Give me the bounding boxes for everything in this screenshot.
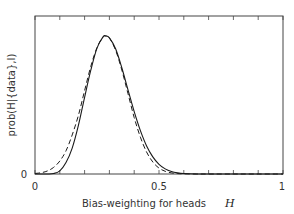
y-tick-label-0: 0 xyxy=(21,169,27,180)
exact-posterior-curve xyxy=(35,36,283,175)
plot-frame xyxy=(35,16,283,174)
gaussian-approx-curve xyxy=(35,36,283,174)
x-axis-title: Bias-weighting for heads xyxy=(82,198,206,209)
x-tick-label-0-5: 0.5 xyxy=(151,181,167,192)
posterior-chart: 0 0 0.5 1 Bias-weighting for heads H pro… xyxy=(0,0,294,214)
x-axis-ticks-top xyxy=(35,16,283,20)
x-axis-variable: H xyxy=(224,197,235,210)
y-axis-title: prob(H|{data},I) xyxy=(6,54,18,137)
x-tick-label-1: 1 xyxy=(279,181,285,192)
x-axis-ticks-bottom xyxy=(35,170,283,174)
x-tick-label-0: 0 xyxy=(32,181,38,192)
